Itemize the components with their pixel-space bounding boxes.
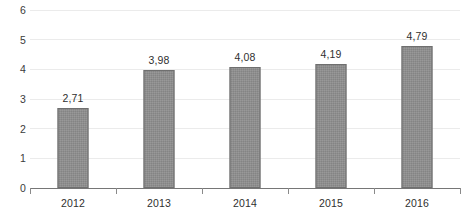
bar[interactable]: [144, 70, 175, 188]
bar-value-label: 2,71: [63, 93, 84, 104]
bar-value-label: 3,98: [149, 55, 170, 66]
bar-chart: 0123456 2,713,984,084,194,79 20122013201…: [0, 0, 467, 218]
bar[interactable]: [58, 108, 89, 188]
bar[interactable]: [230, 67, 261, 188]
y-tick-label: 0: [4, 183, 26, 194]
x-tick-label: 2015: [288, 198, 374, 209]
x-axis-tick: [374, 188, 375, 194]
bar-group: 3,98: [116, 10, 202, 188]
bar-group: 4,08: [202, 10, 288, 188]
x-axis-edge-tick: [30, 188, 31, 194]
x-axis-tick: [116, 188, 117, 194]
y-tick-label: 6: [4, 5, 26, 16]
bar-group: 2,71: [30, 10, 116, 188]
bar-value-label: 4,08: [235, 52, 256, 63]
y-tick-label: 5: [4, 35, 26, 46]
y-axis: 0123456: [0, 10, 26, 188]
bar-value-label: 4,19: [321, 49, 342, 60]
x-tick-label: 2012: [30, 198, 116, 209]
x-axis-edge-tick: [460, 188, 461, 194]
bar-group: 4,19: [288, 10, 374, 188]
x-tick-label: 2014: [202, 198, 288, 209]
x-axis-tick: [202, 188, 203, 194]
y-tick-label: 4: [4, 64, 26, 75]
plot-area: 2,713,984,084,194,79: [30, 10, 460, 188]
x-tick-label: 2016: [374, 198, 460, 209]
y-tick-label: 1: [4, 153, 26, 164]
bar[interactable]: [316, 64, 347, 188]
y-tick-label: 2: [4, 124, 26, 135]
y-tick-label: 3: [4, 94, 26, 105]
bar-value-label: 4,79: [407, 31, 428, 42]
x-axis: 20122013201420152016: [30, 188, 460, 218]
x-tick-label: 2013: [116, 198, 202, 209]
x-axis-tick: [288, 188, 289, 194]
bar-group: 4,79: [374, 10, 460, 188]
bar[interactable]: [402, 46, 433, 188]
